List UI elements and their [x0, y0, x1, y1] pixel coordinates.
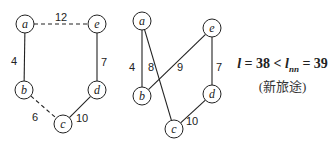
node-e: e	[203, 19, 221, 37]
length-inequality: l = 38 < lnn = 39	[230, 56, 335, 74]
node-b: b	[15, 81, 33, 99]
svg-text:b: b	[139, 89, 145, 103]
graph-1: 1247610aebdc	[11, 11, 107, 133]
svg-text:d: d	[209, 87, 216, 101]
edge-weight-d-c: 10	[186, 115, 198, 127]
svg-text:a: a	[22, 17, 28, 31]
node-c: c	[54, 115, 72, 133]
edge-a-b	[24, 33, 25, 81]
edge-weight-a-e: 12	[55, 11, 67, 23]
svg-text:d: d	[94, 83, 101, 97]
node-d: d	[88, 81, 106, 99]
lnn-value: = 39	[299, 56, 328, 71]
edge-weight-e-b: 9	[177, 61, 183, 73]
tour-length-comparison: l = 38 < lnn = 39 (新旅途)	[230, 56, 335, 95]
svg-text:e: e	[209, 21, 215, 35]
svg-text:b: b	[21, 83, 27, 97]
edge-weight-b-c: 6	[32, 111, 38, 123]
svg-text:c: c	[171, 122, 177, 136]
node-b: b	[133, 87, 151, 105]
node-a: a	[16, 15, 34, 33]
svg-text:c: c	[60, 117, 66, 131]
node-e: e	[88, 15, 106, 33]
svg-text:a: a	[139, 14, 145, 28]
new-tour-caption: (新旅途)	[230, 76, 335, 95]
node-d: d	[203, 85, 221, 103]
node-c: c	[165, 120, 183, 138]
lnn-subscript: nn	[289, 64, 299, 74]
edge-weight-a-b: 4	[129, 61, 135, 73]
edge-a-c	[145, 30, 172, 121]
graph-2: 489710aebdc	[129, 12, 222, 138]
node-a: a	[133, 12, 151, 30]
svg-text:e: e	[94, 17, 100, 31]
edge-weight-d-c: 10	[76, 112, 88, 124]
edge-weight-e-d: 7	[216, 61, 222, 73]
edge-weight-e-d: 7	[101, 56, 107, 68]
edge-weight-a-c: 8	[148, 61, 154, 73]
length-value: = 38 <	[241, 56, 285, 71]
edge-weight-a-b: 4	[11, 55, 17, 67]
